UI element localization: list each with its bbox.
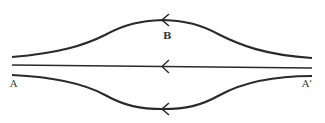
label-b: B bbox=[163, 30, 171, 41]
streamline-diagram: A B A' bbox=[0, 0, 325, 123]
upper-streamline bbox=[12, 20, 312, 58]
lower-streamline bbox=[12, 75, 312, 109]
label-a: A bbox=[9, 78, 18, 89]
label-a-prime: A' bbox=[301, 78, 312, 89]
